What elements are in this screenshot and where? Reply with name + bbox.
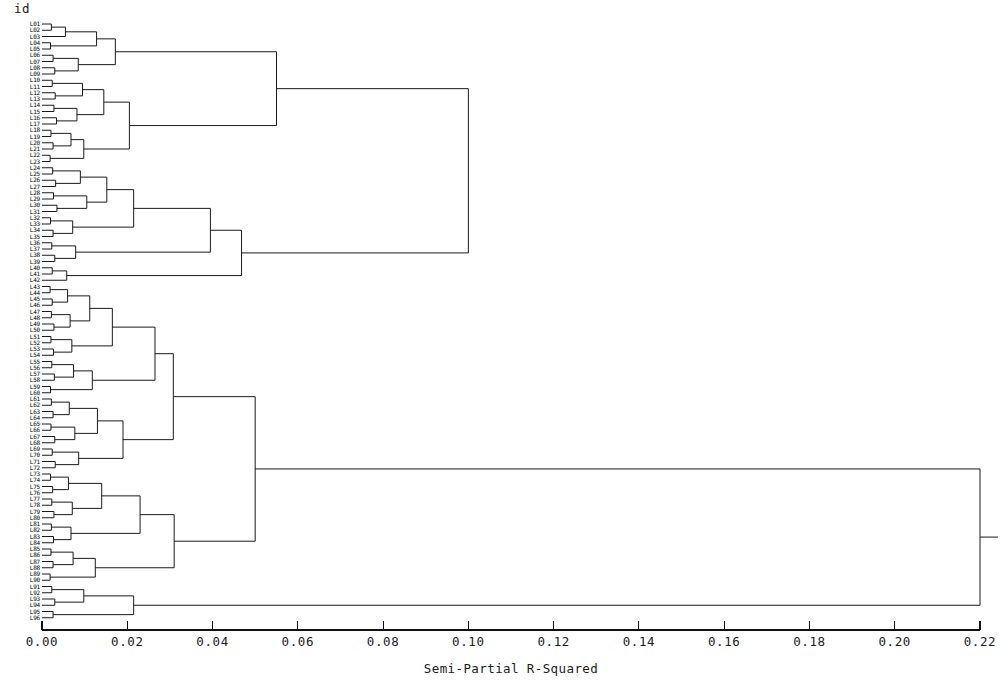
dendrogram-link xyxy=(52,502,72,515)
dendrogram-link xyxy=(54,196,87,209)
dendrogram-link xyxy=(52,246,76,259)
leaf-label-layer: L01L02L03L04L05L06L07L08L09L10L11L12L13L… xyxy=(30,20,41,621)
x-axis-tick-label: 0.00 xyxy=(26,634,59,649)
dendrogram-link xyxy=(42,587,52,593)
dendrogram-link xyxy=(42,574,50,580)
dendrogram-link xyxy=(42,474,51,480)
x-axis-tick-label: 0.16 xyxy=(708,634,741,649)
x-axis-title: Semi-Partial R-Squared xyxy=(424,661,598,676)
dendrogram-link-layer xyxy=(42,24,998,618)
dendrogram-link xyxy=(42,105,54,111)
dendrogram-link xyxy=(53,596,134,615)
dendrogram-link xyxy=(51,552,73,565)
dendrogram-link xyxy=(42,271,67,280)
id-axis-title: id xyxy=(14,1,30,16)
dendrogram-link xyxy=(50,140,84,159)
dendrogram-link xyxy=(42,180,56,186)
dendrogram-link xyxy=(42,168,53,174)
leaf-label: L96 xyxy=(30,614,41,621)
x-axis-tick-label: 0.06 xyxy=(282,634,315,649)
dendrogram-link xyxy=(42,218,51,224)
x-axis-tick-label: 0.14 xyxy=(623,634,656,649)
dendrogram-link xyxy=(42,299,52,305)
dendrogram-link xyxy=(42,80,52,86)
dendrogram-link xyxy=(42,599,55,605)
dendrogram-link xyxy=(51,133,71,146)
dendrogram-link xyxy=(52,365,74,378)
dendrogram-link xyxy=(42,412,53,418)
dendrogram-link xyxy=(72,308,113,346)
dendrogram-link xyxy=(52,83,82,96)
dendrogram-link xyxy=(53,58,78,71)
dendrogram-link xyxy=(42,362,52,368)
dendrogram-link xyxy=(79,421,123,459)
dendrogram-link xyxy=(115,52,276,126)
dendrogram-link xyxy=(42,143,53,149)
dendrogram-link xyxy=(77,90,104,115)
dendrogram-link xyxy=(42,312,51,318)
x-axis-tick-label: 0.22 xyxy=(964,634,997,649)
dendrogram-link xyxy=(76,208,211,252)
dendrogram-link xyxy=(42,287,50,293)
dendrogram-link xyxy=(42,487,53,493)
dendrogram-link xyxy=(123,354,173,440)
dendrogram-link xyxy=(42,27,65,36)
dendrogram-link xyxy=(51,477,69,490)
dendrogram-link xyxy=(95,515,174,568)
x-axis-tick-label: 0.20 xyxy=(878,634,911,649)
x-axis-tick-label: 0.10 xyxy=(452,634,485,649)
dendrogram-link xyxy=(42,43,51,49)
dendrogram-link xyxy=(42,255,55,261)
dendrogram-link xyxy=(53,171,81,184)
dendrogram-link xyxy=(42,499,52,505)
dendrogram-link xyxy=(51,340,72,353)
dendrogram-link xyxy=(67,230,242,275)
dendrogram-link xyxy=(42,230,53,236)
dendrogram-link xyxy=(68,296,90,321)
x-axis-tick-label: 0.02 xyxy=(111,634,144,649)
dendrogram-link xyxy=(42,268,52,274)
dendrogram-link xyxy=(134,469,980,605)
dendrogram-link xyxy=(42,537,54,543)
dendrogram-link xyxy=(42,55,53,61)
dendrogram-link xyxy=(42,130,51,136)
dendrogram-link xyxy=(42,324,54,330)
dendrogram-link xyxy=(42,387,51,393)
dendrogram-link xyxy=(42,462,55,468)
dendrogram-link xyxy=(173,397,255,542)
dendrogram-link xyxy=(242,89,469,253)
dendrogram-link xyxy=(42,193,54,199)
dendrogram-link xyxy=(92,327,155,380)
dendrogram-link xyxy=(52,452,78,465)
dendrogram-link xyxy=(42,549,51,555)
dendrogram-link xyxy=(42,243,52,249)
dendrogram-link xyxy=(42,524,51,530)
dendrogram-link xyxy=(42,449,52,455)
dendrogram-link xyxy=(51,221,73,234)
dendrogram-link xyxy=(51,402,69,415)
dendrogram-link xyxy=(42,24,51,30)
dendrogram-link xyxy=(52,590,84,603)
dendrogram-link xyxy=(42,612,53,618)
dendrogram-link xyxy=(42,68,55,74)
dendrogram-link xyxy=(68,483,101,508)
x-axis: 0.000.020.040.060.080.100.120.140.160.18… xyxy=(26,621,997,649)
dendrogram-link xyxy=(42,349,54,355)
x-axis-tick-label: 0.08 xyxy=(367,634,400,649)
dendrogram-link xyxy=(51,371,93,390)
dendrogram-link xyxy=(42,424,51,430)
dendrogram-link xyxy=(42,437,55,443)
x-axis-tick-label: 0.12 xyxy=(537,634,570,649)
dendrogram-link xyxy=(69,408,97,433)
dendrogram-link xyxy=(51,32,97,46)
dendrogram-link xyxy=(42,399,51,405)
dendrogram-link xyxy=(42,155,50,161)
dendrogram-link xyxy=(71,496,140,534)
dendrogram-canvas: L01L02L03L04L05L06L07L08L09L10L11L12L13L… xyxy=(0,0,1002,688)
dendrogram-link xyxy=(42,512,54,518)
dendrogram-plot: L01L02L03L04L05L06L07L08L09L10L11L12L13L… xyxy=(0,0,1002,688)
dendrogram-link xyxy=(54,108,77,121)
dendrogram-link xyxy=(51,527,71,540)
dendrogram-link xyxy=(80,177,106,202)
x-axis-tick-label: 0.04 xyxy=(196,634,229,649)
